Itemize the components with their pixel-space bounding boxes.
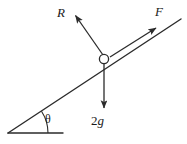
applied-force-label: F bbox=[155, 5, 163, 18]
weight-label: 2g bbox=[91, 114, 104, 127]
normal-force-arrow bbox=[76, 16, 104, 56]
particle-node bbox=[99, 54, 108, 63]
inclined-plane-diagram: R F θ 2g bbox=[0, 0, 187, 144]
weight-symbol: g bbox=[98, 113, 105, 128]
angle-label: θ bbox=[45, 113, 51, 125]
normal-force-label: R bbox=[57, 6, 65, 19]
applied-force-arrow bbox=[110, 28, 156, 57]
